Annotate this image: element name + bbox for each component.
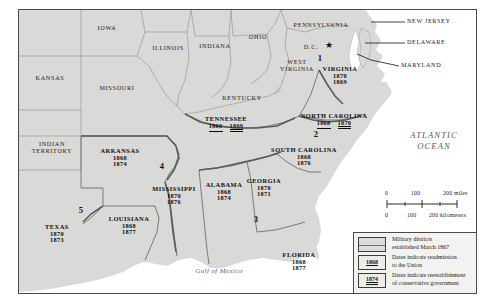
state-group-virginia: VIRGINIA 1870 1869 bbox=[309, 66, 371, 85]
state-label-maryland: MARYLAND bbox=[401, 62, 441, 68]
state-label-illinois: ILLINOIS bbox=[145, 45, 191, 51]
florida-conservative-year: 1877 bbox=[292, 264, 306, 271]
mississippi-conservative-year: 1876 bbox=[167, 198, 181, 205]
atlantic-ocean-line2: OCEAN bbox=[397, 141, 471, 152]
legend-text-readmission: Dates indicate readmission to the Union bbox=[392, 254, 457, 269]
atlantic-ocean-line1: ATLANTIC bbox=[397, 130, 471, 141]
legend-item-conservative-government: 1874 Dates indicate reestablishment of c… bbox=[354, 270, 477, 288]
maryland-leader bbox=[357, 54, 399, 66]
legend-item-military-districts: Military districts established March 186… bbox=[354, 233, 477, 252]
state-label-pennsylvania: PENNSYLVANIA bbox=[287, 22, 355, 28]
state-group-louisiana: LOUISIANA 1868 1877 bbox=[97, 216, 161, 235]
legend-readmission-line1: Dates indicate readmission bbox=[392, 254, 457, 262]
state-group-texas: TEXAS 1870 1873 bbox=[29, 224, 85, 243]
gulf-of-mexico-label: Gulf of Mexico bbox=[179, 268, 259, 275]
scale-bar: 0 100 200 miles 0 100 200 kilometers bbox=[385, 190, 477, 224]
state-group-arkansas: ARKANSAS 1868 1874 bbox=[89, 148, 151, 167]
state-label-ohio: OHIO bbox=[241, 34, 275, 40]
state-group-mississippi: MISSISSIPPI 1870 1876 bbox=[139, 186, 209, 205]
state-label-delaware: DELAWARE bbox=[407, 39, 445, 45]
texas-conservative-year: 1873 bbox=[50, 236, 64, 243]
legend-conservative-line2: of conservative government bbox=[392, 280, 465, 288]
georgia-conservative-year: 1871 bbox=[257, 190, 271, 197]
south-carolina-conservative-year: 1876 bbox=[297, 159, 311, 166]
dc-label: D.C. bbox=[297, 44, 325, 50]
state-group-florida: FLORIDA 1868 1877 bbox=[271, 252, 327, 271]
legend-readmission-line2: to the Union bbox=[392, 262, 457, 270]
district-number-5: 5 bbox=[74, 206, 88, 215]
district-number-3: 3 bbox=[249, 215, 263, 224]
state-group-tennessee: TENNESSEE 1866 1869 bbox=[185, 116, 267, 132]
scale-miles-tick-200: 200 miles bbox=[443, 190, 468, 196]
scale-bar-ruler bbox=[385, 200, 477, 210]
state-label-new-jersey: NEW JERSEY bbox=[407, 18, 451, 24]
reconstruction-map-figure: IOWA ILLINOIS INDIANA OHIO PENNSYLVANIA … bbox=[0, 0, 493, 302]
state-group-north-carolina: NORTH CAROLINA 1868 1870 bbox=[291, 113, 377, 129]
scale-miles-tick-0: 0 bbox=[385, 190, 388, 196]
dc-star-icon: ★ bbox=[323, 41, 335, 50]
legend-item-readmission: 1868 Dates indicate readmission to the U… bbox=[354, 252, 477, 270]
readmission-year-key: 1868 bbox=[358, 255, 386, 270]
map-legend: Military districts established March 186… bbox=[353, 232, 477, 294]
north-carolina-readmission-year: 1868 bbox=[317, 120, 331, 129]
state-label-north-carolina: NORTH CAROLINA bbox=[291, 113, 377, 120]
readmission-key-year: 1868 bbox=[366, 259, 378, 266]
scale-km-tick-200: 200 kilometers bbox=[429, 212, 466, 218]
atlantic-ocean-label: ATLANTIC OCEAN bbox=[397, 130, 471, 151]
legend-military-line2: established March 1867 bbox=[392, 244, 449, 252]
legend-conservative-line1: Dates indicate reestablishment bbox=[392, 272, 465, 280]
alabama-conservative-year: 1874 bbox=[217, 194, 231, 201]
scale-km-tick-100: 100 bbox=[407, 212, 416, 218]
legend-text-military-districts: Military districts established March 186… bbox=[392, 236, 449, 251]
conservative-year-key: 1874 bbox=[358, 273, 386, 288]
state-label-indian-territory: INDIAN TERRITORY bbox=[23, 140, 81, 155]
state-label-indiana: INDIANA bbox=[193, 43, 237, 49]
louisiana-conservative-year: 1877 bbox=[122, 228, 136, 235]
state-label-iowa: IOWA bbox=[87, 25, 127, 31]
legend-text-conservative: Dates indicate reestablishment of conser… bbox=[392, 272, 465, 287]
tennessee-conservative-year: 1869 bbox=[230, 123, 244, 132]
map-frame: IOWA ILLINOIS INDIANA OHIO PENNSYLVANIA … bbox=[18, 9, 477, 294]
scale-km-tick-0: 0 bbox=[385, 212, 388, 218]
tennessee-readmission-year: 1866 bbox=[209, 123, 223, 132]
scale-miles-tick-100: 100 bbox=[411, 190, 420, 196]
district-number-1: 1 bbox=[313, 54, 327, 63]
state-label-kansas: KANSAS bbox=[27, 75, 73, 81]
conservative-key-year: 1874 bbox=[366, 276, 378, 285]
district-number-2: 2 bbox=[309, 130, 323, 139]
swatch-divider-line bbox=[359, 245, 385, 246]
district-number-4: 4 bbox=[155, 162, 169, 171]
state-label-kentucky: KENTUCKY bbox=[215, 95, 269, 101]
virginia-conservative-year: 1869 bbox=[333, 78, 347, 85]
state-label-missouri: MISSOURI bbox=[91, 85, 143, 91]
north-carolina-conservative-year: 1870 bbox=[338, 120, 352, 129]
arkansas-conservative-year: 1874 bbox=[113, 160, 127, 167]
military-district-swatch bbox=[358, 237, 386, 252]
legend-military-line1: Military districts bbox=[392, 236, 449, 244]
state-group-south-carolina: SOUTH CAROLINA 1868 1876 bbox=[261, 147, 347, 166]
